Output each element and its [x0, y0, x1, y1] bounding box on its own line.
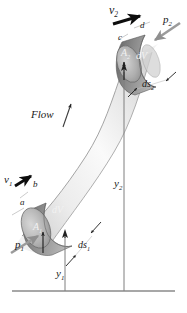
label-y1: y1 — [56, 268, 64, 282]
figure-canvas: v2 d p2 c A2 dV ds2 Flow y2 v1 b a dV A1… — [0, 0, 187, 313]
label-corner-d: d — [140, 21, 145, 30]
label-y2: y2 — [114, 178, 122, 192]
label-corner-b: b — [33, 180, 38, 189]
label-ds2: ds2 — [142, 79, 154, 91]
label-corner-a: a — [20, 198, 25, 207]
label-v1: v1 — [4, 174, 12, 188]
label-corner-c: c — [118, 33, 122, 42]
label-v2: v2 — [109, 4, 118, 19]
label-A2: A2 — [121, 48, 130, 60]
label-dV-upper: dV — [136, 51, 147, 61]
diagram-svg — [0, 0, 187, 313]
label-p1: p1 — [15, 239, 24, 253]
label-p2: p2 — [163, 14, 172, 28]
v1-arrow — [15, 176, 31, 186]
label-ds1: ds1 — [78, 240, 90, 252]
flow-arrow — [63, 104, 71, 127]
label-dV-lower: dV — [52, 205, 63, 215]
label-A1: A1 — [33, 222, 42, 234]
label-flow: Flow — [31, 109, 54, 120]
